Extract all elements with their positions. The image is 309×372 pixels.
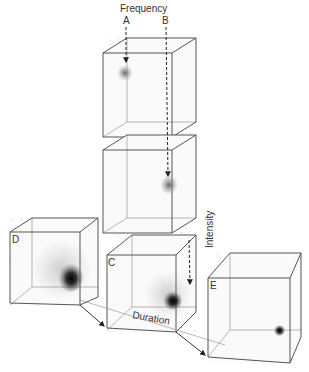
- speckle-dot: [181, 232, 182, 233]
- label-b: B: [162, 15, 169, 26]
- cube-c-label: C: [108, 257, 115, 268]
- cluster-d: [57, 262, 83, 292]
- cluster-c: [162, 290, 182, 310]
- cluster-top: [117, 65, 133, 81]
- speckle-dot: [11, 220, 12, 221]
- speckle-dot: [217, 254, 218, 255]
- speckle-dot: [296, 349, 297, 350]
- cube-d: D: [10, 218, 98, 305]
- cube-top: [103, 38, 196, 137]
- speckle-dot: [118, 41, 119, 42]
- label-a: A: [123, 15, 130, 26]
- cube-d-label: D: [12, 234, 19, 245]
- cube-e: E: [208, 253, 301, 363]
- cube-e-label: E: [210, 280, 217, 291]
- arrow-c-to-e: [176, 332, 205, 355]
- speckle-dot: [112, 247, 113, 248]
- speckle-dot: [190, 134, 191, 135]
- intensity-label: Intensity: [204, 211, 215, 248]
- speckle-dot: [110, 44, 111, 45]
- speckle-dot: [182, 133, 183, 134]
- cube-diagram: Frequency A B D: [0, 0, 309, 372]
- speckle-dot: [293, 358, 294, 359]
- frequency-label: Frequency: [120, 3, 167, 14]
- arrow-d-to-c: [80, 305, 104, 326]
- cube-middle: [103, 135, 196, 233]
- cluster-e: [273, 324, 285, 336]
- cluster-middle: [160, 175, 178, 195]
- speckle-dot: [21, 219, 22, 220]
- speckle-dot: [194, 330, 195, 331]
- speckle-dot: [118, 236, 119, 237]
- speckle-dot: [110, 40, 111, 41]
- speckle-dot: [185, 227, 186, 228]
- speckle-dot: [118, 38, 119, 39]
